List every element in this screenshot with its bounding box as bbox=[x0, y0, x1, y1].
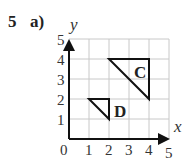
x-tick: 4 bbox=[145, 142, 153, 158]
x-tick: 1 bbox=[85, 142, 93, 158]
x-tick: 5 bbox=[165, 145, 173, 159]
y-axis-arrow-icon bbox=[63, 39, 75, 51]
y-tick: 3 bbox=[57, 72, 65, 88]
origin-label: 0 bbox=[60, 142, 68, 158]
y-tick: 2 bbox=[57, 92, 65, 108]
triangle-c-label: C bbox=[134, 63, 146, 82]
x-tick: 2 bbox=[105, 142, 113, 158]
y-axis-label: y bbox=[68, 15, 78, 34]
x-axis-label: x bbox=[173, 117, 182, 136]
x-tick: 3 bbox=[125, 142, 133, 158]
grid-lines bbox=[69, 39, 169, 139]
y-tick: 1 bbox=[57, 112, 65, 128]
triangle-d-label: D bbox=[114, 102, 126, 121]
triangle-d bbox=[89, 99, 109, 119]
x-axis-arrow-icon bbox=[158, 133, 170, 145]
y-tick: 5 bbox=[57, 32, 65, 48]
y-tick: 4 bbox=[57, 52, 65, 68]
coordinate-grid-diagram: y x 0 1 2 3 4 5 1 2 3 4 5 C D bbox=[0, 0, 183, 159]
